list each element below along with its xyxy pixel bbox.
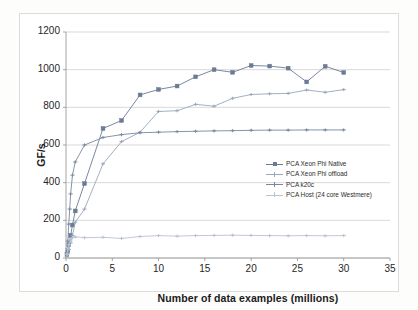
y-tick-label-0: 0 [18, 251, 60, 262]
legend-swatch-icon [266, 160, 283, 168]
legend-item-0: PCA Xeon Phi Native [266, 159, 372, 169]
series-line-3 [67, 235, 344, 254]
legend-swatch-icon [266, 171, 283, 179]
legend-label: PCA Xeon Phi offload [286, 171, 347, 177]
data-point-marker [120, 119, 124, 123]
data-point-marker [101, 127, 105, 131]
data-point-marker [323, 64, 327, 68]
x-tick-label-15: 15 [190, 263, 220, 274]
x-tick-marks-group [66, 258, 390, 261]
legend-label: PCA Host (24 core Westmere) [286, 192, 372, 198]
data-point-marker [231, 70, 235, 74]
legend-item-3: PCA Host (24 core Westmere) [266, 190, 372, 200]
x-tick-label-10: 10 [144, 263, 174, 274]
chart-figure: 020040060080010001200 05101520253035 Num… [0, 0, 418, 310]
data-point-marker [342, 71, 346, 75]
y-axis-title: GF/s [35, 125, 47, 185]
y-tick-label-1000: 1000 [18, 63, 60, 74]
legend-item-1: PCA Xeon Phi offload [266, 169, 372, 179]
x-axis-title: Number of data examples (millions) [86, 292, 410, 304]
data-point-marker [249, 64, 253, 68]
legend-label: PCA k20c [286, 182, 314, 188]
x-tick-label-20: 20 [236, 263, 266, 274]
data-point-marker [73, 209, 77, 213]
data-point-marker [71, 223, 75, 227]
y-tick-label-800: 800 [18, 100, 60, 111]
data-point-marker [286, 66, 290, 70]
x-tick-label-0: 0 [51, 263, 81, 274]
x-tick-label-5: 5 [97, 263, 127, 274]
x-tick-label-30: 30 [329, 263, 359, 274]
data-point-marker [83, 182, 87, 186]
series-3 [65, 234, 346, 256]
data-point-marker [194, 75, 198, 79]
legend-swatch-icon [266, 191, 283, 199]
y-tick-label-1200: 1200 [18, 25, 60, 36]
data-point-marker [157, 88, 161, 92]
x-tick-label-35: 35 [375, 263, 405, 274]
legend-item-2: PCA k20c [266, 180, 372, 190]
data-point-marker [212, 68, 216, 72]
chart-frame: 020040060080010001200 05101520253035 Num… [19, 13, 399, 292]
legend-label: PCA Xeon Phi Native [286, 161, 346, 167]
y-tick-label-200: 200 [18, 213, 60, 224]
x-tick-label-25: 25 [282, 263, 312, 274]
data-point-marker [268, 64, 272, 68]
gridlines-group [66, 32, 390, 258]
data-point-marker [138, 93, 142, 97]
data-point-marker [175, 84, 179, 88]
legend-swatch-icon [266, 181, 283, 189]
chart-legend: PCA Xeon Phi NativePCA Xeon Phi offloadP… [266, 159, 372, 201]
data-point-marker [305, 80, 309, 84]
chart-plot-area [20, 14, 398, 291]
